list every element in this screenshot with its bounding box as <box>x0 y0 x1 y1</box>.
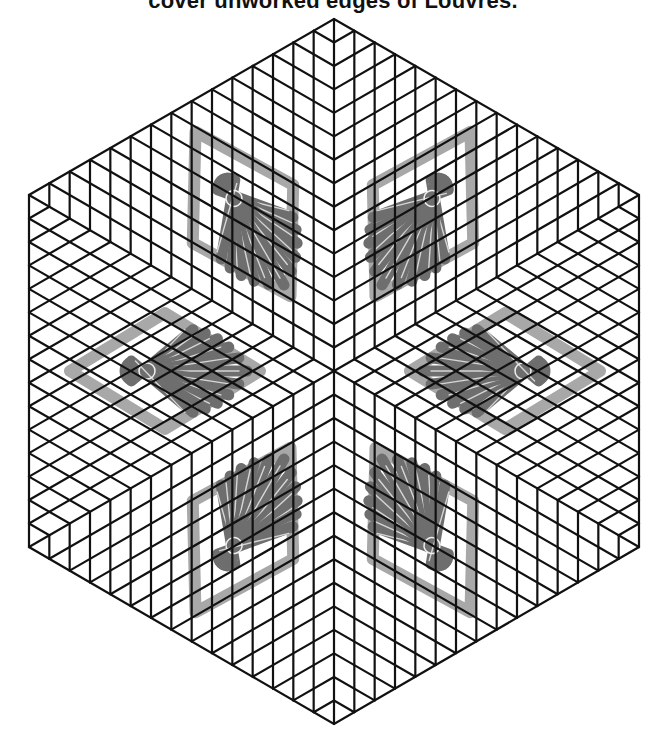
louvre-upper-left <box>145 103 340 326</box>
louvre-left <box>70 313 260 429</box>
louvre-lower-left <box>145 419 340 642</box>
louvre-hexagon-diagram <box>0 0 666 748</box>
louvre-right <box>410 313 600 429</box>
